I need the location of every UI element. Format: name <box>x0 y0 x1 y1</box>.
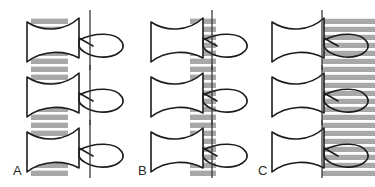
figure-root: A B <box>0 0 375 187</box>
panel-a-label: A <box>13 163 22 178</box>
panel-c: C <box>258 10 375 178</box>
panel-b-label: B <box>138 163 147 178</box>
panel-c-label: C <box>258 163 267 178</box>
spine-field-diagram: A B <box>0 0 375 187</box>
